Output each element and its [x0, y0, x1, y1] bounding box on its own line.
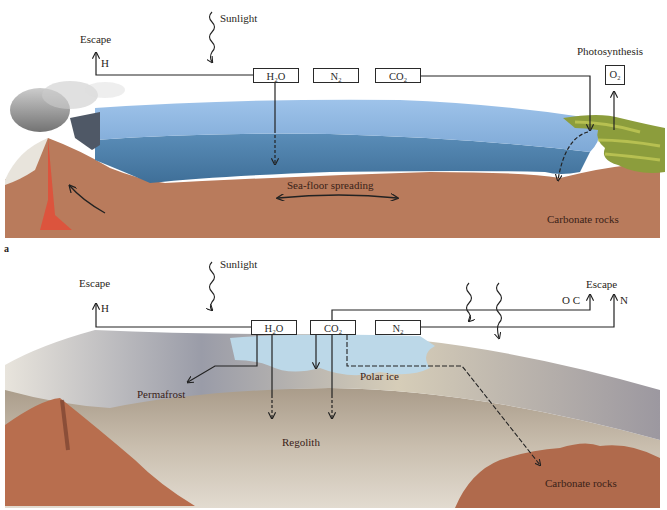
hydrogen-label: H: [101, 302, 109, 314]
escape-left-label: Escape: [79, 277, 110, 289]
mars-cross-section: [0, 250, 667, 510]
photosynthesis-label: Photosynthesis: [577, 45, 643, 57]
sunlight-wave-icon-2: [467, 283, 472, 321]
h2o-box: H₂O: [253, 68, 299, 83]
sunlight-wave-icon: [210, 262, 215, 310]
carbonate-rocks-label: Carbonate rocks: [545, 477, 617, 489]
nitrogen-label: N: [620, 294, 628, 306]
panel-b-mars: Sunlight Escape H Escape O C N Permafros…: [0, 250, 667, 510]
polar-ice-label: Polar ice: [360, 370, 399, 382]
co2-box: CO₂: [375, 68, 421, 83]
oxygen-carbon-label: O C: [562, 294, 580, 306]
sunlight-label: Sunlight: [220, 12, 257, 24]
co2-box: CO₂: [310, 320, 356, 335]
carbonate-rocks-label: Carbonate rocks: [547, 213, 619, 225]
escape-right-label: Escape: [586, 278, 617, 290]
sunlight-label: Sunlight: [220, 258, 257, 270]
h2o-box: H₂O: [251, 320, 297, 335]
n2-box: N₂: [375, 320, 421, 335]
regolith-label: Regolith: [282, 436, 320, 448]
o2-box: O₂: [605, 65, 625, 85]
sunlight-wave-icon: [210, 12, 215, 62]
panel-a-earth: Sunlight Escape H Photosynthesis Sea-flo…: [0, 0, 667, 250]
escape-label: Escape: [80, 33, 111, 45]
permafrost-label: Permafrost: [137, 388, 185, 400]
sea-floor-spreading-label: Sea-floor spreading: [287, 179, 373, 191]
hydrogen-label: H: [101, 57, 109, 69]
n2-box: N₂: [313, 68, 359, 83]
